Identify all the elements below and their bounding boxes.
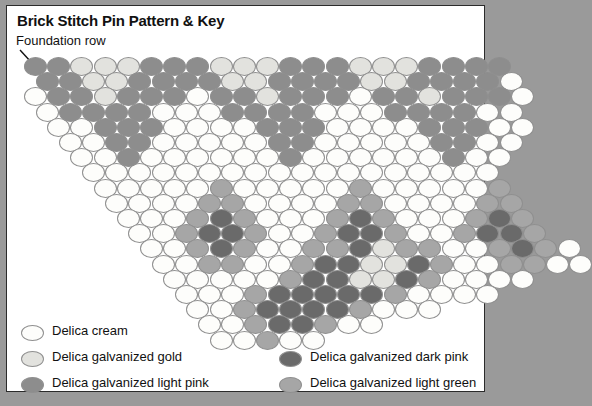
bead	[569, 255, 592, 274]
bead	[256, 331, 279, 350]
pattern-panel: Brick Stitch Pin Pattern & Key Foundatio…	[6, 5, 485, 392]
bead	[442, 148, 465, 167]
bead	[221, 103, 244, 122]
legend-label: Delica galvanized light green	[310, 375, 476, 390]
bead-pattern-grid	[7, 6, 486, 336]
bead	[453, 285, 476, 304]
legend-label: Delica cream	[52, 323, 128, 338]
bead	[198, 255, 221, 274]
legend-swatch-gold	[21, 351, 44, 367]
bead	[221, 255, 244, 274]
bead	[384, 103, 407, 122]
bead	[384, 285, 407, 304]
legend-label: Delica galvanized dark pink	[310, 349, 468, 364]
legend-swatch-dark-pink	[279, 351, 302, 367]
bead	[418, 270, 441, 289]
bead	[117, 148, 140, 167]
legend-swatch-light-green	[279, 377, 302, 393]
legend-label: Delica galvanized gold	[52, 349, 182, 364]
legend-label: Delica galvanized light pink	[52, 375, 209, 390]
bead	[523, 255, 546, 274]
bead	[326, 87, 349, 106]
legend-swatch-light-pink	[21, 377, 44, 393]
bead	[476, 285, 499, 304]
bead	[546, 255, 569, 274]
bead	[500, 255, 523, 274]
bead	[349, 300, 372, 319]
bead	[210, 331, 233, 350]
legend-swatch-cream	[21, 325, 44, 341]
bead	[59, 103, 82, 122]
